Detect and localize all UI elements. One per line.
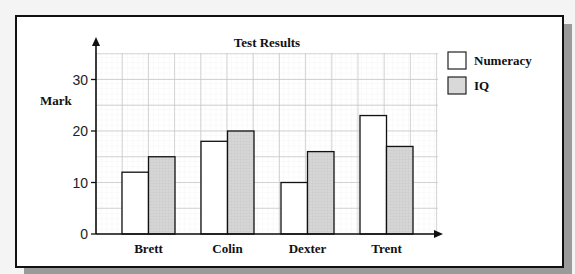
legend-label-numeracy: Numeracy (474, 53, 532, 68)
bar-trent-numeracy (360, 116, 387, 234)
bar-brett-numeracy (122, 172, 149, 234)
y-tick-label: 0 (80, 226, 88, 242)
bar-brett-iq (149, 157, 176, 234)
y-tick-label: 30 (72, 72, 88, 88)
bar-colin-numeracy (201, 141, 228, 234)
legend: NumeracyIQ (448, 52, 532, 94)
x-tick-label: Brett (134, 241, 163, 256)
x-tick-label: Colin (212, 241, 243, 256)
bar-dexter-iq (308, 152, 335, 234)
x-tick-label: Dexter (289, 241, 327, 256)
chart-title: Test Results (234, 35, 300, 50)
legend-swatch-numeracy (448, 52, 466, 69)
bar-trent-iq (387, 146, 414, 234)
y-tick-label: 20 (72, 123, 88, 139)
x-tick-label: Trent (371, 241, 402, 256)
y-axis-label: Mark (40, 93, 73, 108)
bar-chart: Test ResultsMark0102030BrettColinDexterT… (0, 0, 575, 274)
bar-dexter-numeracy (281, 183, 308, 235)
y-tick-label: 10 (72, 175, 88, 191)
legend-label-iq: IQ (474, 78, 489, 93)
legend-swatch-iq (448, 77, 466, 94)
bar-colin-iq (228, 131, 255, 234)
